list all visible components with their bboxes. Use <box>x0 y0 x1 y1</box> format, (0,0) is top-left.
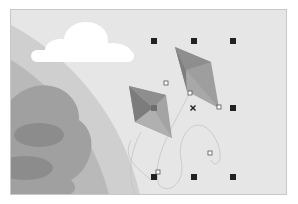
handle-top-right <box>230 38 236 44</box>
handle-top-center <box>191 38 197 44</box>
handle-bottom-center <box>191 174 197 180</box>
handle-middle-left <box>151 105 157 111</box>
handle-bottom-right <box>230 174 236 180</box>
handle-middle-right <box>230 105 236 111</box>
handle-top-left <box>151 38 157 44</box>
artboard-canvas[interactable] <box>10 9 287 195</box>
handle-bottom-left <box>151 174 157 180</box>
planet-crater <box>14 123 64 147</box>
